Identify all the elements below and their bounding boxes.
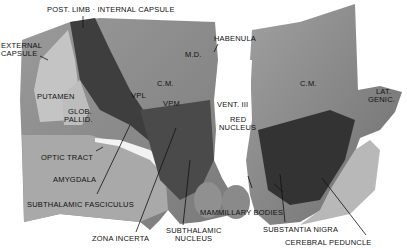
label-md: M.D. (185, 51, 202, 59)
label-mammillary-bodies: MAMMILLARY BODIES (200, 209, 283, 217)
label-red-nucleus-line2: NUCLEUS (219, 124, 256, 132)
label-amygdala: AMYGDALA (53, 176, 96, 184)
label-vpm: VPM (163, 100, 180, 108)
label-optic-tract: OPTIC TRACT (41, 154, 93, 162)
label-vent-iii: VENT. III (217, 101, 248, 109)
label-subthalamic-fasciculus: SUBTHALAMIC FASCICULUS (27, 201, 134, 209)
label-subthalamic-nucleus-line2: NUCLEUS (175, 235, 212, 243)
label-lat-genic-line2: GENIC. (368, 96, 395, 104)
label-glob-pallid-line2: PALLID. (64, 116, 93, 124)
label-putamen: PUTAMEN (37, 93, 75, 101)
label-cerebral-peduncle: CEREBRAL PEDUNCLE (285, 239, 371, 247)
brain-section-figure: POST. LIMB · INTERNAL CAPSULE EXTERNAL C… (0, 0, 407, 248)
label-habenula: HABENULA (214, 35, 256, 43)
label-vpl: VPL (131, 92, 146, 100)
label-cm-right: C.M. (300, 80, 317, 88)
label-substantia-nigra: SUBSTANTIA NIGRA (263, 226, 338, 234)
label-external-capsule-line2: CAPSULE (1, 50, 37, 58)
label-zona-incerta: ZONA INCERTA (92, 235, 149, 243)
label-cm-left: C.M. (157, 80, 174, 88)
label-post-limb-internal-capsule: POST. LIMB · INTERNAL CAPSULE (47, 6, 175, 14)
